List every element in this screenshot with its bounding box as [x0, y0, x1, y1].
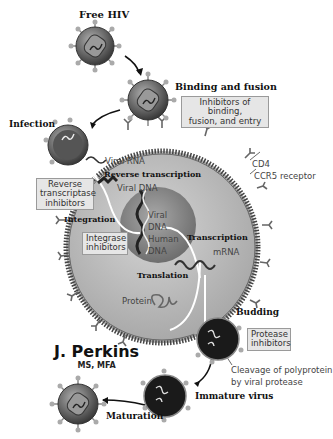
protease-inhibitors-box: Protease inhibitors [247, 328, 291, 351]
integrase-inhibitors-line2: inhibitors [86, 243, 124, 252]
viral-rna-strand [86, 157, 106, 163]
label-immature: Immature virus [195, 392, 273, 401]
entry-inhibitors-line1: Inhibitors of binding, [185, 98, 265, 117]
label-viral-dna: Viral DNA [117, 184, 157, 193]
label-free-hiv: Free HIV [79, 10, 129, 21]
label-cd4: CD4 [252, 160, 270, 169]
label-ccr5: CCR5 receptor [254, 172, 316, 181]
label-nucleus-viral: Viral [148, 211, 167, 220]
virion-binding [120, 72, 177, 127]
entry-inhibitors-box: Inhibitors of binding, fusion, and entry [181, 96, 269, 128]
label-mrna: mRNA [213, 248, 239, 257]
label-infection: Infection [9, 120, 55, 129]
signature-name: J. Perkins [54, 342, 139, 361]
label-viral-rna: Viral RNA [105, 157, 145, 166]
entry-inhibitors-line2: fusion, and entry [185, 117, 265, 126]
virion-mature [50, 376, 107, 433]
label-translation: Translation [137, 271, 188, 279]
virion-free [69, 20, 122, 73]
label-binding: Binding and fusion [175, 82, 277, 92]
label-protein: Protein [122, 297, 152, 306]
label-nucleus-human: Human [148, 235, 179, 244]
label-reverse-transcription: Reverse transcription [104, 170, 201, 178]
label-integration: Integration [64, 215, 115, 223]
label-maturation: Maturation [106, 412, 163, 421]
label-nucleus-human-dna: DNA [148, 247, 167, 256]
rt-inhibitors-line3: inhibitors [40, 199, 90, 208]
signature-degrees: MS, MFA [54, 361, 139, 370]
label-cleavage-1: Cleavage of polyprotein [231, 366, 332, 375]
protease-inhibitors-line2: inhibitors [251, 339, 287, 348]
integrase-inhibitors-box: Integrase inhibitors [82, 232, 128, 255]
label-transcription: Transcription [187, 233, 248, 241]
rt-inhibitors-box: Reverse transcriptase inhibitors [36, 178, 94, 210]
label-budding: Budding [236, 308, 279, 317]
label-cleavage-2: by viral protease [231, 378, 303, 387]
label-nucleus-viral-dna: DNA [148, 223, 167, 232]
artist-signature: J. Perkins MS, MFA [54, 342, 139, 370]
